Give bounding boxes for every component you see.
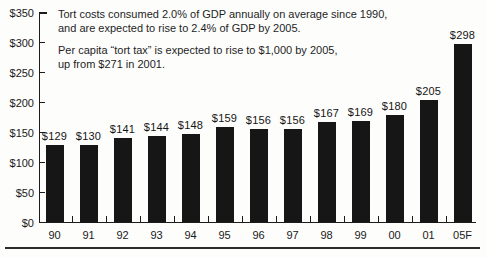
x-axis-tick xyxy=(344,216,345,222)
y-axis-tick xyxy=(40,102,45,104)
y-axis-label: $250 xyxy=(0,66,34,80)
bar-value-label: $205 xyxy=(407,84,451,98)
x-axis-label: 00 xyxy=(378,228,412,242)
y-axis-label: $350 xyxy=(0,6,34,20)
x-axis-label: 95 xyxy=(208,228,242,242)
y-axis-label: $50 xyxy=(0,186,34,200)
y-axis-label: $300 xyxy=(0,36,34,50)
annotation-paragraph-gap xyxy=(58,35,387,43)
x-axis-tick xyxy=(276,216,277,222)
y-axis-label: $200 xyxy=(0,96,34,110)
bar-value-label: $180 xyxy=(373,99,417,113)
x-axis-label: 90 xyxy=(38,228,72,242)
x-axis-label: 99 xyxy=(344,228,378,242)
x-axis-tick xyxy=(72,216,73,222)
bar-91 xyxy=(80,145,98,223)
y-axis-label: $0 xyxy=(0,216,34,230)
y-axis-label: $100 xyxy=(0,156,34,170)
x-axis-label: 98 xyxy=(310,228,344,242)
x-axis-tick xyxy=(412,216,413,222)
bottom-rule xyxy=(5,247,480,249)
x-axis-tick xyxy=(174,216,175,222)
y-axis-label: $150 xyxy=(0,126,34,140)
bar-93 xyxy=(148,136,166,222)
bar-05F xyxy=(454,44,472,223)
bar-00 xyxy=(386,115,404,223)
x-axis-tick xyxy=(140,216,141,222)
bar-94 xyxy=(182,134,200,223)
x-axis-label: 96 xyxy=(242,228,276,242)
bar-98 xyxy=(318,122,336,222)
x-axis-label: 05F xyxy=(446,228,480,242)
annotation-p1-line1: Tort costs consumed 2.0% of GDP annually… xyxy=(58,7,387,21)
x-axis-tick xyxy=(242,216,243,222)
chart-annotation: Tort costs consumed 2.0% of GDP annually… xyxy=(58,7,387,71)
x-axis-label: 92 xyxy=(106,228,140,242)
y-axis-tick xyxy=(40,72,45,74)
y-axis-top-corner xyxy=(39,12,47,14)
bar-01 xyxy=(420,100,438,223)
bar-96 xyxy=(250,129,268,223)
x-axis-tick xyxy=(446,216,447,222)
bar-99 xyxy=(352,121,370,222)
annotation-p2-line2: up from $271 in 2001. xyxy=(58,57,387,71)
x-axis-tick xyxy=(208,216,209,222)
x-axis-label: 93 xyxy=(140,228,174,242)
x-axis-label: 97 xyxy=(276,228,310,242)
bar-95 xyxy=(216,127,234,222)
x-axis-label: 94 xyxy=(174,228,208,242)
tort-cost-bar-chart: Tort costs consumed 2.0% of GDP annually… xyxy=(0,0,486,258)
bar-97 xyxy=(284,129,302,223)
bar-value-label: $298 xyxy=(441,28,485,42)
y-axis-tick xyxy=(40,42,45,44)
bar-90 xyxy=(46,145,64,222)
y-axis-tick xyxy=(40,162,45,164)
x-axis-tick xyxy=(106,216,107,222)
x-axis-label: 91 xyxy=(72,228,106,242)
annotation-p2-line1: Per capita “tort tax” is expected to ris… xyxy=(58,43,387,57)
y-axis-tick xyxy=(40,222,45,224)
x-axis-label: 01 xyxy=(412,228,446,242)
x-axis-tick xyxy=(310,216,311,222)
annotation-p1-line2: and are expected to rise to 2.4% of GDP … xyxy=(58,21,387,35)
y-axis-tick xyxy=(40,192,45,194)
bar-92 xyxy=(114,138,132,223)
x-axis-tick xyxy=(378,216,379,222)
